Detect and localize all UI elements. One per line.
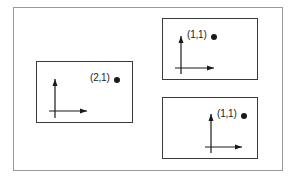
axes-icon: [163, 19, 259, 81]
top-right-frame-box: (1,1): [162, 18, 258, 80]
axes-icon: [37, 62, 134, 124]
point-dot: [114, 77, 120, 83]
point-label: (1,1): [187, 29, 207, 41]
point-label: (2,1): [90, 72, 110, 84]
point-dot: [211, 34, 217, 40]
axes-icon: [163, 98, 259, 160]
point-label: (1,1): [217, 108, 237, 120]
left-frame-box: (2,1): [36, 61, 133, 123]
point-dot: [241, 113, 247, 119]
bottom-right-frame-box: (1,1): [162, 97, 258, 159]
